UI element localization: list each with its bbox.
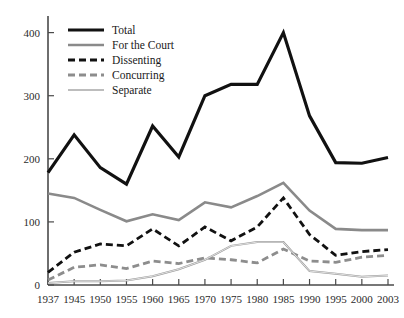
x-tick-label: 1975 bbox=[220, 293, 243, 305]
line-chart: 0100200300400 19371945195019551960196519… bbox=[0, 0, 404, 318]
x-tick-label: 2000 bbox=[351, 293, 374, 305]
x-tick-label: 1950 bbox=[89, 293, 112, 305]
series-total bbox=[48, 33, 388, 184]
x-tick-label: 1995 bbox=[325, 293, 348, 305]
series-lines bbox=[48, 33, 388, 283]
x-tick-label: 1945 bbox=[63, 293, 86, 305]
x-tick-label: 1960 bbox=[142, 293, 165, 305]
legend-label-total: Total bbox=[112, 24, 135, 36]
y-axis-ticks: 0100200300400 bbox=[24, 27, 55, 291]
legend-label-dissenting: Dissenting bbox=[112, 54, 161, 67]
y-tick-label: 0 bbox=[35, 279, 41, 291]
x-tick-label: 1990 bbox=[299, 293, 322, 305]
y-tick-label: 100 bbox=[24, 216, 41, 228]
chart-container: 0100200300400 19371945195019551960196519… bbox=[0, 0, 404, 318]
legend-label-separate: Separate bbox=[112, 84, 152, 97]
x-tick-label: 1985 bbox=[272, 293, 295, 305]
x-tick-label: 1965 bbox=[168, 293, 191, 305]
y-tick-label: 300 bbox=[24, 90, 41, 102]
chart-legend: TotalFor the CourtDissentingConcurringSe… bbox=[68, 24, 175, 97]
x-tick-label: 2003 bbox=[377, 293, 400, 305]
x-tick-label: 1970 bbox=[194, 293, 217, 305]
legend-label-for-the-court: For the Court bbox=[112, 39, 175, 51]
series-for-the-court bbox=[48, 183, 388, 230]
x-tick-label: 1937 bbox=[37, 293, 60, 305]
x-tick-label: 1980 bbox=[246, 293, 269, 305]
legend-label-concurring: Concurring bbox=[112, 69, 165, 82]
x-tick-label: 1955 bbox=[115, 293, 138, 305]
y-tick-label: 200 bbox=[24, 153, 41, 165]
y-tick-label: 400 bbox=[24, 27, 41, 39]
x-axis-ticks: 1937194519501955196019651970197519801985… bbox=[37, 279, 400, 305]
